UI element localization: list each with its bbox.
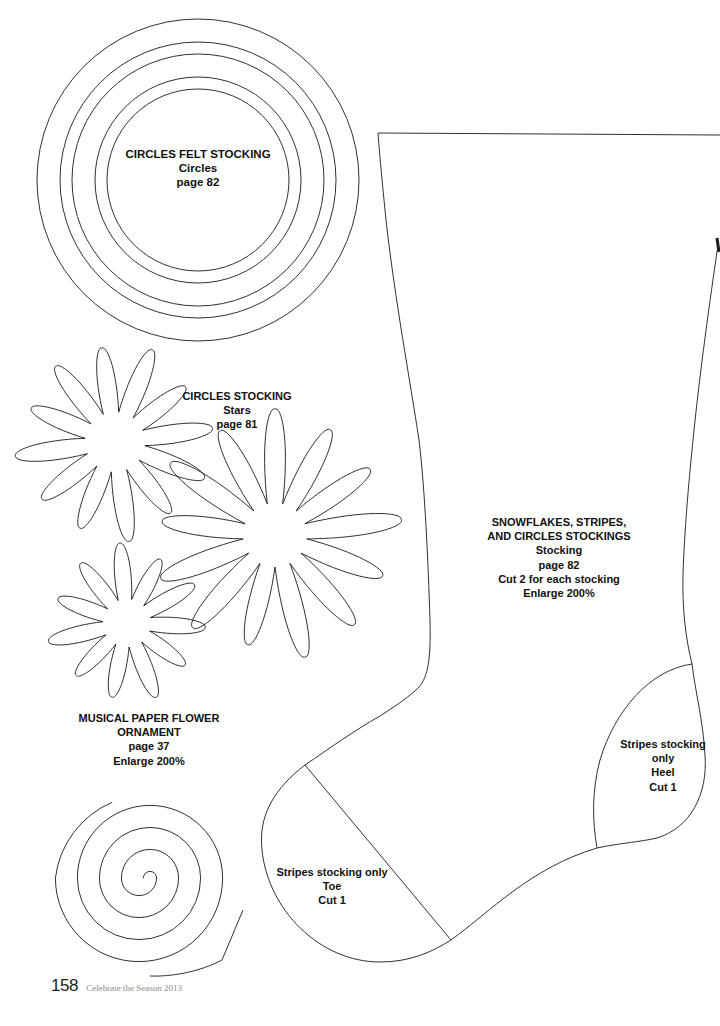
- ornament-label-title-2: ORNAMENT: [79, 725, 220, 739]
- ornament-label-title-1: MUSICAL PAPER FLOWER: [79, 711, 220, 725]
- circles-label-page: page 82: [125, 175, 270, 189]
- stocking-label: SNOWFLAKES, STRIPES, AND CIRCLES STOCKIN…: [487, 515, 630, 600]
- stars-label-page: page 81: [182, 417, 291, 431]
- publication-title: Celebrate the Season 2013: [86, 983, 182, 993]
- stocking-label-title-1: SNOWFLAKES, STRIPES,: [487, 515, 630, 529]
- ornament-label: MUSICAL PAPER FLOWER ORNAMENT page 37 En…: [79, 711, 220, 768]
- heel-label-line-2: only: [620, 751, 706, 765]
- stocking-label-cut: Cut 2 for each stocking: [487, 572, 630, 586]
- toe-label-cut: Cut 1: [276, 893, 387, 907]
- toe-label: Stripes stocking only Toe Cut 1: [276, 865, 387, 908]
- heel-label: Stripes stocking only Heel Cut 1: [620, 737, 706, 794]
- heel-label-line-1: Stripes stocking: [620, 737, 706, 751]
- stars-label-name: Stars: [182, 403, 291, 417]
- heel-label-cut: Cut 1: [620, 780, 706, 794]
- heel-label-name: Heel: [620, 765, 706, 779]
- stocking-label-enlarge: Enlarge 200%: [487, 586, 630, 600]
- edge-mark: [717, 238, 719, 252]
- toe-divider-line: [305, 765, 451, 940]
- spiral-flower-template: [55, 802, 243, 976]
- spiral-line: [55, 802, 222, 961]
- circles-label: CIRCLES FELT STOCKING Circles page 82: [125, 147, 270, 190]
- star-flower-3: [48, 543, 205, 697]
- spiral-tail: [150, 910, 243, 976]
- star-flower-1: [15, 348, 212, 542]
- stocking-label-name: Stocking: [487, 543, 630, 557]
- toe-label-name: Toe: [276, 879, 387, 893]
- ornament-label-page: page 37: [79, 739, 220, 753]
- toe-label-line-1: Stripes stocking only: [276, 865, 387, 879]
- ornament-label-enlarge: Enlarge 200%: [79, 754, 220, 768]
- star-flower-2: [160, 409, 401, 658]
- stars-label-title: CIRCLES STOCKING: [182, 389, 291, 403]
- page-number: 158: [51, 976, 78, 995]
- page-footer: 158 Celebrate the Season 2013: [51, 976, 182, 996]
- stocking-label-page: page 82: [487, 558, 630, 572]
- stars-label: CIRCLES STOCKING Stars page 81: [182, 389, 291, 432]
- circles-label-name: Circles: [125, 161, 270, 175]
- stocking-label-title-2: AND CIRCLES STOCKINGS: [487, 529, 630, 543]
- circles-label-title: CIRCLES FELT STOCKING: [125, 147, 270, 161]
